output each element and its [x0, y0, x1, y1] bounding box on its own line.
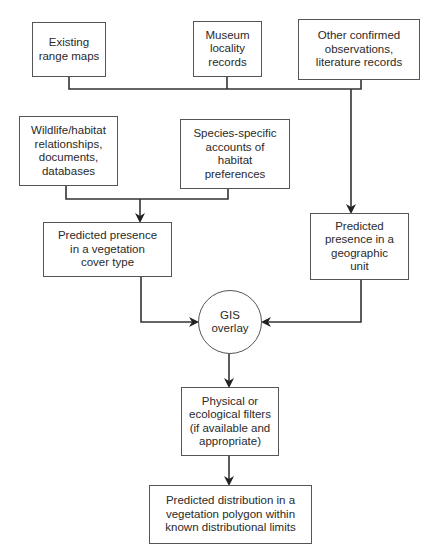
node-wildlife-habitat-relationships: Wildlife/habitat relationships, document… [19, 116, 118, 186]
node-physical-ecological-filters: Physical or ecological filters (if avail… [181, 387, 279, 456]
node-predicted-presence-geographic: Predicted presence in a geographic unit [310, 213, 409, 280]
node-other-confirmed-observations: Other confirmed observations, literature… [298, 19, 420, 80]
node-museum-locality-records: Museum locality records [193, 21, 262, 77]
node-species-specific-accounts: Species-specific accounts of habitat pre… [180, 119, 290, 189]
node-predicted-presence-vegetation: Predicted presence in a vegetation cover… [43, 222, 172, 277]
node-existing-range-maps: Existing range maps [32, 22, 106, 77]
node-gis-overlay: GIS overlay [198, 290, 262, 354]
node-predicted-distribution: Predicted distribution in a vegetation p… [149, 485, 312, 544]
